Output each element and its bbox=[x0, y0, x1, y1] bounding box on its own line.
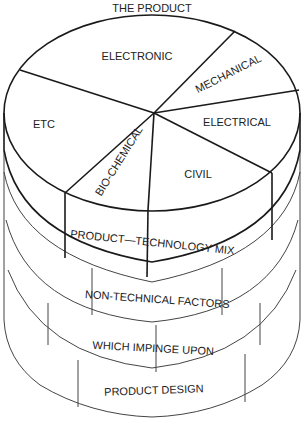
band-label-product-design: PRODUCT DESIGN bbox=[104, 382, 204, 397]
diagram-title: THE PRODUCT bbox=[112, 2, 192, 14]
lower-bands bbox=[4, 150, 300, 417]
band-label-product-technology-mix: PRODUCT—TECHNOLOGY MIX bbox=[70, 227, 236, 256]
band-label-non-technical-factors: NON-TECHNICAL FACTORS bbox=[85, 288, 230, 310]
segment-label-civil: CIVIL bbox=[184, 168, 212, 180]
segment-label-mechanical: MECHANICAL bbox=[193, 52, 263, 95]
segment-label-etc: ETC bbox=[33, 118, 55, 130]
segment-label-electronic: ELECTRONIC bbox=[102, 50, 173, 62]
pie-top bbox=[4, 15, 300, 211]
segment-label-electrical: ELECTRICAL bbox=[203, 116, 271, 128]
product-cylinder-diagram: THE PRODUCT bbox=[0, 0, 304, 433]
band-label-which-impinge-upon: WHICH IMPINGE UPON bbox=[92, 339, 214, 357]
